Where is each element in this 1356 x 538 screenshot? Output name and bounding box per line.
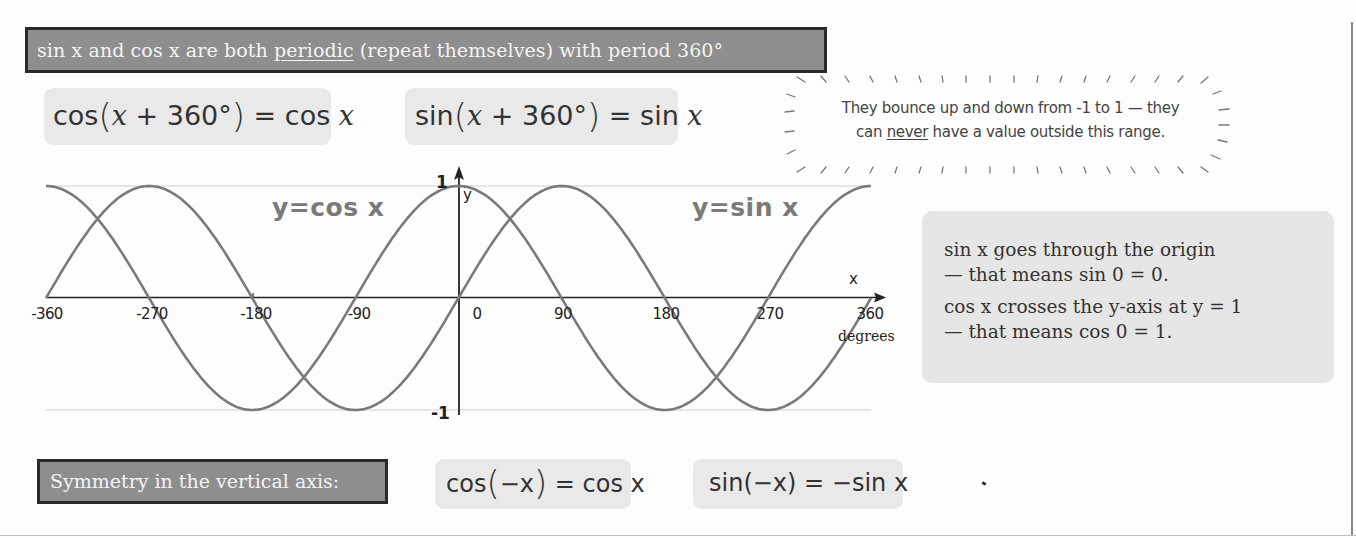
cos-curve-label: y=cos x bbox=[272, 193, 384, 222]
plus-360: + 360° bbox=[482, 100, 587, 131]
y-axis-letter: y bbox=[463, 186, 472, 204]
open-paren: ( bbox=[98, 96, 111, 136]
banner-text-before: sin x and cos x are both bbox=[37, 39, 274, 61]
origin-info-box: sin x goes through the origin — that mea… bbox=[922, 211, 1334, 383]
sin-cos-graph: y=cos x y=sin x 1 -1 y x -360 -270 -180 … bbox=[0, 160, 920, 430]
rhs-cos-x: = cos x bbox=[547, 470, 645, 498]
var-x-rhs: x bbox=[339, 100, 354, 131]
equals-sin: = sin bbox=[600, 100, 687, 131]
banner-text-after: (repeat themselves) with period 360° bbox=[354, 39, 724, 61]
page-bottom-divider bbox=[0, 535, 1356, 536]
callout-text-can: can bbox=[856, 123, 887, 141]
sin-period-formula: sin(x + 360°) = sin x bbox=[405, 88, 678, 145]
textbook-page: sin x and cos x are both periodic (repea… bbox=[0, 0, 1356, 538]
x-tick-180: 180 bbox=[653, 305, 680, 323]
close-paren: ) bbox=[534, 463, 547, 503]
fn-sin: sin bbox=[415, 100, 454, 131]
x-tick-minus-360: -360 bbox=[31, 305, 63, 323]
x-tick-360: 360 bbox=[857, 305, 884, 323]
x-tick-90: 90 bbox=[554, 305, 572, 323]
equals-cos: = cos bbox=[245, 100, 339, 131]
x-tick-minus-270: -270 bbox=[136, 305, 168, 323]
open-paren: ( bbox=[486, 463, 499, 503]
cos-period-formula: cos(x + 360°) = cos x bbox=[44, 88, 331, 145]
x-axis-units-label: degrees bbox=[838, 328, 895, 344]
sin-curve-label: y=sin x bbox=[692, 193, 799, 222]
cos-even-formula: cos(−x) = cos x bbox=[435, 459, 631, 509]
var-x: x bbox=[467, 100, 482, 131]
info-line-3: cos x crosses the y-axis at y = 1 bbox=[944, 294, 1334, 319]
x-tick-270: 270 bbox=[757, 305, 784, 323]
y-tick-minus-1: -1 bbox=[431, 403, 450, 423]
close-paren: ) bbox=[232, 96, 245, 136]
fn-cos: cos bbox=[446, 470, 486, 498]
info-line-2: — that means sin 0 = 0. bbox=[944, 262, 1334, 287]
periodic-banner: sin x and cos x are both periodic (repea… bbox=[25, 27, 827, 73]
callout-line-2: can never have a value outside this rang… bbox=[783, 120, 1238, 144]
x-tick-0: 0 bbox=[473, 305, 482, 323]
symmetry-banner: Symmetry in the vertical axis: bbox=[37, 459, 388, 504]
banner-text-periodic: periodic bbox=[274, 39, 354, 61]
callout-line-1: They bounce up and down from -1 to 1 — t… bbox=[783, 96, 1238, 120]
var-x: x bbox=[112, 100, 127, 131]
x-axis-letter: x bbox=[849, 270, 858, 288]
plus-360: + 360° bbox=[127, 100, 232, 131]
fn-cos: cos bbox=[53, 100, 98, 131]
close-paren: ) bbox=[587, 96, 600, 136]
info-line-1: sin x goes through the origin bbox=[944, 237, 1334, 262]
arg-neg-x: −x bbox=[500, 470, 534, 498]
x-tick-minus-180: -180 bbox=[240, 305, 272, 323]
y-tick-1: 1 bbox=[436, 172, 448, 192]
page-edge-divider bbox=[1351, 22, 1353, 536]
x-tick-minus-90: -90 bbox=[348, 305, 371, 323]
callout-text-rest: have a value outside this range. bbox=[928, 123, 1165, 141]
info-line-4: — that means cos 0 = 1. bbox=[944, 319, 1334, 344]
callout-text-never: never bbox=[887, 123, 929, 141]
var-x-rhs: x bbox=[687, 100, 702, 131]
open-paren: ( bbox=[454, 96, 467, 136]
sin-odd-formula: sin(−x) = −sin x bbox=[693, 459, 903, 509]
stray-mark bbox=[982, 481, 987, 486]
callout-text: They bounce up and down from -1 to 1 — t… bbox=[783, 96, 1238, 144]
